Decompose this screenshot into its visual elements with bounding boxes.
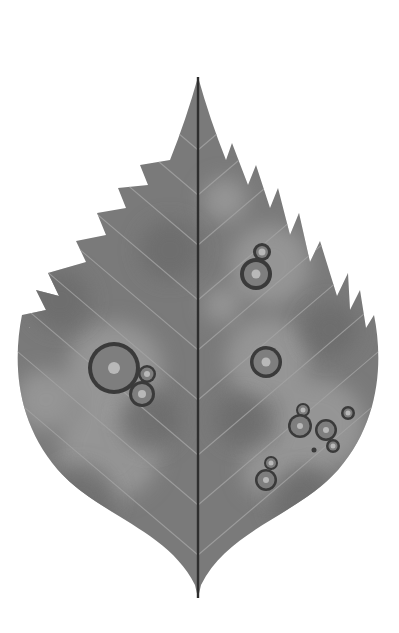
lesion-spot (326, 439, 340, 453)
leaf-illustration: Serrated leaf with fungal leaf-spot lesi… (0, 0, 399, 633)
leaf-texture (0, 0, 399, 633)
lesion-spot (264, 456, 278, 470)
lesion-spot (255, 469, 277, 491)
lesion-spot (288, 414, 312, 438)
lesion-spot (240, 258, 272, 290)
lateral-vein (198, 0, 398, 150)
lesion-spot (312, 448, 317, 453)
lesion-spot (341, 406, 355, 420)
lesion-spot (250, 346, 282, 378)
lesion-spot (138, 365, 156, 383)
lesion-spot (129, 381, 155, 407)
leaf-graphic (0, 0, 399, 633)
lesion-spot (315, 419, 337, 441)
lateral-vein (0, 0, 198, 150)
